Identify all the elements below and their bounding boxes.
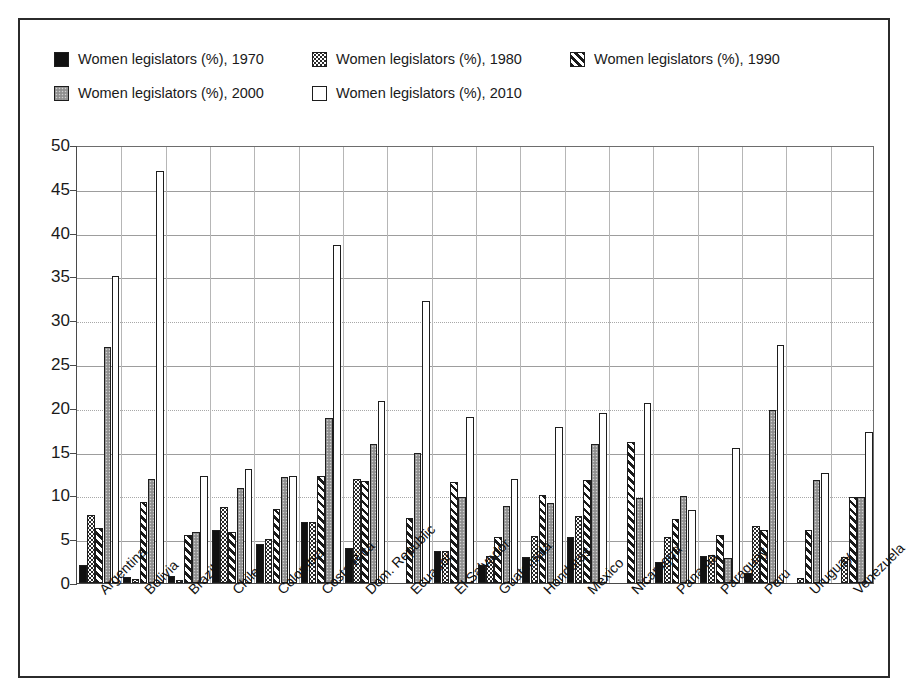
bar [273, 509, 280, 583]
bar [370, 444, 377, 583]
bar [857, 497, 864, 583]
bar-group-peru [742, 147, 786, 583]
y-tick-mark [70, 540, 77, 541]
group-separator [476, 147, 477, 583]
group-separator [432, 147, 433, 583]
y-tick-mark [70, 584, 77, 585]
bar [140, 502, 147, 583]
bar [325, 418, 332, 583]
bar [813, 480, 820, 583]
bar [865, 432, 872, 583]
bar [797, 578, 804, 583]
group-separator [831, 147, 832, 583]
bar-group-venezuela [831, 147, 875, 583]
y-tick-label: 40 [26, 224, 70, 244]
y-tick-label: 10 [26, 486, 70, 506]
y-tick-label: 5 [26, 530, 70, 550]
y-tick-mark [70, 146, 77, 147]
bar [591, 444, 598, 583]
group-separator [742, 147, 743, 583]
bar [237, 488, 244, 583]
bar-group-panama [653, 147, 697, 583]
y-tick-mark [70, 496, 77, 497]
y-tick-label: 25 [26, 355, 70, 375]
group-separator [121, 147, 122, 583]
bar [112, 276, 119, 583]
bar [79, 565, 86, 583]
bar [466, 417, 473, 583]
bar [378, 401, 385, 583]
bar [458, 497, 465, 583]
y-tick-label: 45 [26, 180, 70, 200]
group-separator [254, 147, 255, 583]
bar [583, 480, 590, 583]
y-tick-mark [70, 409, 77, 410]
bar [627, 442, 634, 583]
bar [148, 479, 155, 583]
group-separator [520, 147, 521, 583]
bar-group-paraguay [698, 147, 742, 583]
bar-group-el-salvador [432, 147, 476, 583]
y-tick-label: 35 [26, 267, 70, 287]
bar [450, 482, 457, 583]
bar [87, 515, 94, 583]
y-tick-mark [70, 277, 77, 278]
bar-group-ecuador [387, 147, 431, 583]
bar-group-honduras [520, 147, 564, 583]
group-separator [387, 147, 388, 583]
bar [220, 507, 227, 583]
bar [317, 476, 324, 583]
y-tick-mark [70, 234, 77, 235]
chart-figure: Women legislators (%), 1970 Women legisl… [18, 18, 890, 678]
bar [414, 453, 421, 583]
bar [156, 171, 163, 583]
bar-group-nicaragua [609, 147, 653, 583]
group-separator [653, 147, 654, 583]
group-separator [565, 147, 566, 583]
group-separator [786, 147, 787, 583]
y-tick-mark [70, 365, 77, 366]
x-axis-labels: ArgentinaBoliviaBrazilChileColombiaCosta… [76, 586, 874, 686]
bar-group-costa-rica [299, 147, 343, 583]
bar-group-brazil [166, 147, 210, 583]
bar [132, 579, 139, 583]
y-axis: 05101520253035404550 [24, 146, 70, 584]
plot-area [76, 146, 874, 584]
group-separator [343, 147, 344, 583]
bar-group-bolivia [121, 147, 165, 583]
group-separator [609, 147, 610, 583]
bar [680, 496, 687, 583]
bar [95, 528, 102, 583]
bar-group-colombia [254, 147, 298, 583]
group-separator [698, 147, 699, 583]
y-tick-label: 15 [26, 443, 70, 463]
group-separator [210, 147, 211, 583]
y-tick-mark [70, 321, 77, 322]
bar-group-dom-republic [343, 147, 387, 583]
group-separator [299, 147, 300, 583]
bar-group-uruguay [786, 147, 830, 583]
bar-group-argentina [77, 147, 121, 583]
bar [555, 427, 562, 583]
y-tick-label: 20 [26, 399, 70, 419]
bar [361, 481, 368, 583]
bar [769, 410, 776, 583]
bar [777, 345, 784, 583]
y-tick-mark [70, 453, 77, 454]
bar [333, 245, 340, 583]
bar [176, 580, 183, 584]
bar [281, 477, 288, 583]
bar [805, 530, 812, 583]
bar [849, 497, 856, 583]
bar [104, 347, 111, 583]
plot-wrapper: 05101520253035404550 ArgentinaBoliviaBra… [20, 20, 888, 676]
group-separator [166, 147, 167, 583]
y-tick-label: 50 [26, 136, 70, 156]
bar [184, 535, 191, 583]
bar [599, 413, 606, 583]
y-tick-label: 0 [26, 574, 70, 594]
bar-group-mexico [565, 147, 609, 583]
bar [228, 532, 235, 583]
bar [644, 403, 651, 583]
bar-group-chile [210, 147, 254, 583]
